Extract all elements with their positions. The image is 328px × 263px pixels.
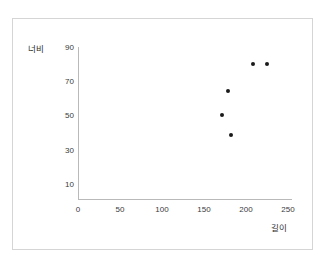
scatter-plot-figure: 90 70 50 30 10 0 50 100 150 200 250 너비 길… — [0, 0, 328, 263]
scatter-point — [265, 62, 269, 66]
scatter-data-layer — [0, 0, 328, 263]
scatter-point — [229, 133, 233, 137]
scatter-point — [226, 89, 230, 93]
scatter-point — [251, 62, 255, 66]
scatter-point — [220, 113, 224, 117]
